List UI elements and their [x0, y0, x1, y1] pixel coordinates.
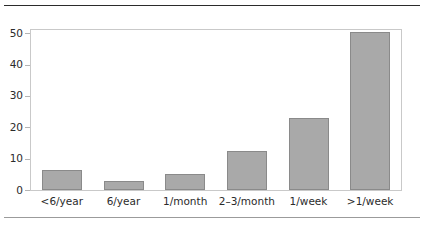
x-axis-tick-label: >1/week: [339, 195, 401, 208]
bottom-divider-rule: [4, 217, 420, 218]
x-axis-tick-label: 1/week: [278, 195, 340, 208]
top-divider-rule: [4, 5, 420, 6]
y-axis-tick-label: 40: [1, 59, 23, 70]
y-axis-tick-label: 50: [1, 28, 23, 39]
plot-area: [31, 30, 401, 190]
bar: [104, 181, 144, 190]
bar: [289, 118, 329, 190]
x-axis-tick-label: <6/year: [31, 195, 93, 208]
bar: [227, 151, 267, 190]
bar: [42, 170, 82, 190]
y-axis-tick-label: 10: [1, 153, 23, 164]
bar: [350, 32, 390, 190]
y-axis-tick-label: 0: [1, 185, 23, 196]
x-axis-tick-label: 1/month: [154, 195, 216, 208]
bar: [165, 174, 205, 190]
y-axis-tick-label: 20: [1, 122, 23, 133]
x-axis-labels: <6/year6/year1/month2–3/month1/week>1/we…: [31, 195, 401, 211]
y-axis-tick-label: 30: [1, 90, 23, 101]
figure: 01020304050 <6/year6/year1/month2–3/mont…: [0, 0, 424, 230]
x-axis-tick-label: 6/year: [93, 195, 155, 208]
x-axis-tick-label: 2–3/month: [216, 195, 278, 208]
